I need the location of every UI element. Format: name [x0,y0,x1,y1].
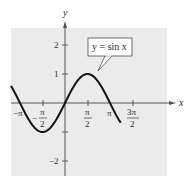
y-axis-arrow-icon [63,21,67,28]
x-axis-label: x [178,97,184,108]
y-tick-label-1: 1 [54,69,59,79]
y-tick-label-2: 2 [54,40,59,50]
x-tick-label-minus-pi: −π [13,108,23,118]
y-axis-label: y [62,7,68,18]
svg-text:−: − [32,113,37,123]
svg-text:2: 2 [85,119,90,129]
y-tick-label-minus-2: −2 [49,156,59,166]
x-axis-arrow-icon [169,101,176,105]
svg-text:3π: 3π [127,107,137,117]
svg-text:π: π [40,107,45,117]
svg-text:π: π [85,107,90,117]
svg-text:2: 2 [40,119,45,129]
x-tick-label-pi: π [107,108,112,118]
sine-graph-figure: y x 2 1 −2 −π − π 2 [0,0,191,185]
callout-label: y = sin x [92,41,127,52]
svg-text:2: 2 [130,119,135,129]
